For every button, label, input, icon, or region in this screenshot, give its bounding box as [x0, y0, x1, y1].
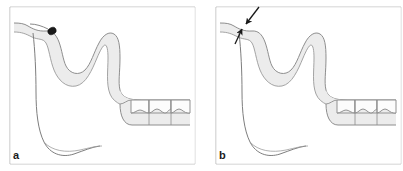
panel-label-b: b — [219, 150, 226, 161]
figure-container: a — [0, 0, 403, 171]
panel-gutter — [197, 0, 206, 171]
panel-b: b — [206, 0, 403, 171]
panel-label-a: a — [13, 150, 19, 161]
panel-a-diagram — [0, 0, 197, 171]
panel-a: a — [0, 0, 197, 171]
panel-b-diagram — [206, 0, 403, 171]
